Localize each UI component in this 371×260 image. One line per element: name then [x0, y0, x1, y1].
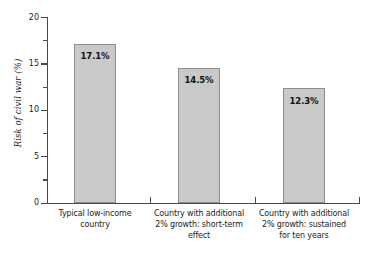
- category-label-3-line-2: 2% growth: sustained: [237, 219, 371, 230]
- x-tick-sep-2: [255, 197, 256, 204]
- bar-chart: Risk of civil war (%) 20 15 10 5 0 17.1%…: [0, 0, 371, 260]
- y-tick-label-5: 5: [9, 152, 39, 161]
- y-tick-label-0: 0: [9, 198, 39, 207]
- bar-value-label-3: 12.3%: [283, 96, 325, 106]
- category-label-3-line-1: Country with additional: [237, 208, 371, 219]
- category-label-3-line-3: for ten years: [237, 230, 371, 241]
- y-tick-minor-17-5: [43, 40, 48, 41]
- bar-typical-low-income-country[interactable]: [74, 44, 116, 203]
- bar-value-label-2: 14.5%: [178, 75, 220, 85]
- bar-value-label-1: 17.1%: [74, 51, 116, 61]
- y-tick-label-20: 20: [9, 13, 39, 22]
- x-tick-start: [47, 197, 48, 204]
- y-tick-minor-12-5: [43, 87, 48, 88]
- x-axis-line: [47, 203, 360, 204]
- y-tick-10: [41, 110, 48, 111]
- y-tick-minor-2-5: [43, 179, 48, 180]
- y-tick-20: [41, 17, 48, 18]
- bar-short-term-effect[interactable]: [178, 68, 220, 203]
- y-tick-label-10: 10: [9, 105, 39, 114]
- y-tick-15: [41, 63, 48, 64]
- x-tick-end: [359, 197, 360, 204]
- y-tick-minor-7-5: [43, 133, 48, 134]
- x-tick-sep-1: [150, 197, 151, 204]
- category-label-3: Country with additional 2% growth: susta…: [237, 208, 371, 242]
- y-tick-5: [41, 156, 48, 157]
- y-tick-label-15: 15: [9, 59, 39, 68]
